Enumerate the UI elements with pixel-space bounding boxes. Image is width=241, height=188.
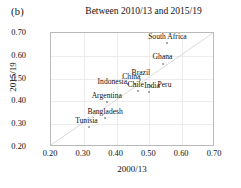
data-point-label: Argentina [92, 92, 122, 100]
x-axis-tick-label: 0.30 [75, 149, 90, 158]
data-point-label: South Africa [148, 33, 187, 41]
plot-area: South AfricaGhanaBrazilChinaIndonesiaChi… [50, 32, 214, 146]
x-axis-tick-label: 0.40 [108, 149, 123, 158]
x-axis-label: 2000/13 [50, 164, 214, 174]
data-point-label: Tunisia [75, 117, 98, 125]
data-point [148, 91, 150, 93]
x-axis-tick-label: 0.60 [174, 149, 189, 158]
plot-inner: South AfricaGhanaBrazilChinaIndonesiaChi… [51, 33, 213, 145]
data-point-label: Bangladesh [87, 108, 122, 116]
y-axis-tick-label: 0.20 [0, 142, 26, 151]
chart-title: Between 2010/13 and 2015/19 [56, 6, 231, 16]
data-point [106, 101, 108, 103]
gridline-horizontal [51, 56, 213, 57]
gridline-horizontal [51, 101, 213, 102]
y-axis-tick-label: 0.70 [0, 28, 26, 37]
gridline-vertical [182, 33, 183, 145]
gridline-vertical [84, 33, 85, 145]
y-axis-label: 2015/19 [8, 47, 18, 107]
scatter-figure: (b) Between 2010/13 and 2015/19 South Af… [0, 0, 241, 188]
y-axis-tick-label: 0.30 [0, 119, 26, 128]
x-axis-tick-label: 0.70 [207, 149, 222, 158]
data-point [104, 117, 106, 119]
x-axis-tick-label: 0.50 [141, 149, 156, 158]
x-axis-tick-label: 0.20 [43, 149, 58, 158]
data-point-label: India [144, 83, 160, 91]
data-point [137, 90, 139, 92]
data-point-label: Ghana [153, 54, 173, 62]
data-point [166, 42, 168, 44]
gridline-vertical [117, 33, 118, 145]
panel-label: (b) [11, 6, 24, 17]
data-point [162, 63, 164, 65]
data-point [88, 126, 90, 128]
data-point-label: Chile [127, 81, 143, 89]
data-point-label: Indonesia [98, 78, 128, 86]
